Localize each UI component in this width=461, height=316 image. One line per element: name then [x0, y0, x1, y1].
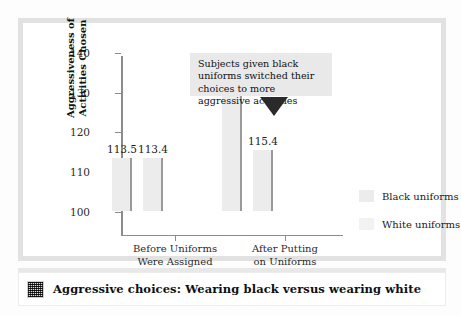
legend-label-black-uniforms: Black uniforms — [382, 191, 459, 202]
category-1-line-2: Were Assigned — [120, 256, 230, 269]
bar-before-white-value-label: 113.4 — [131, 143, 175, 155]
caption-text: Aggressive choices: Wearing black versus… — [53, 282, 421, 296]
x-axis-tick-2 — [285, 235, 286, 241]
caption-bar: Aggressive choices: Wearing black versus… — [18, 272, 446, 306]
x-axis-tick-1 — [175, 235, 176, 241]
figure-root: 100110120130140 Aggressiveness of Activi… — [0, 0, 461, 316]
y-axis-tick-label-120: 120 — [60, 126, 90, 138]
bar-after-white-value-label: 115.4 — [241, 135, 285, 147]
y-axis-tick-100 — [115, 212, 121, 213]
x-axis-category-label-2: After Putting on Uniforms — [230, 243, 340, 268]
category-2-line-1: After Putting — [230, 243, 340, 256]
chart-panel: 100110120130140 Aggressiveness of Activi… — [23, 23, 441, 256]
y-axis-tick-label-100: 100 — [60, 206, 90, 218]
bar-after-white — [253, 150, 273, 211]
x-axis-line — [121, 235, 343, 237]
down-triangle-icon — [260, 97, 288, 116]
annotation-callout: Subjects given black uniforms switched t… — [190, 53, 332, 96]
chart-legend: Black uniforms White uniforms — [359, 190, 460, 246]
category-2-line-2: on Uniforms — [230, 256, 340, 269]
legend-item-black-uniforms: Black uniforms — [359, 190, 460, 202]
y-axis-tick-label-110: 110 — [60, 166, 90, 178]
y-axis-tick-140 — [115, 53, 121, 54]
legend-label-white-uniforms: White uniforms — [382, 219, 460, 230]
y-axis-title: Aggressiveness of Activities Chosen — [65, 13, 89, 123]
y-axis-title-line-2: Activities Chosen — [77, 13, 89, 123]
bar-before-black — [112, 158, 132, 212]
legend-swatch-black-uniforms — [359, 190, 374, 202]
bar-before-white — [143, 158, 163, 211]
category-1-line-1: Before Uniforms — [120, 243, 230, 256]
pixel-thumbnail-icon — [27, 281, 44, 298]
legend-swatch-white-uniforms — [359, 218, 374, 230]
bar-after-black — [222, 91, 242, 211]
legend-item-white-uniforms: White uniforms — [359, 218, 460, 230]
x-axis-category-label-1: Before Uniforms Were Assigned — [120, 243, 230, 268]
y-axis-title-line-1: Aggressiveness of — [65, 13, 77, 123]
y-axis-tick-120 — [115, 132, 121, 133]
y-axis-tick-130 — [115, 93, 121, 94]
